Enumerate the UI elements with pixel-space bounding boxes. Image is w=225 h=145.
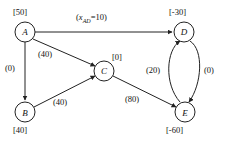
- node-b-supply-label: [40]: [13, 126, 27, 135]
- edge-c-to-e-label: (80): [125, 95, 139, 104]
- edge-a-to-d-label-subscript: AD: [83, 18, 91, 24]
- network-flow-diagram: A B C D E [50] [40] [0] [-30] [-60] (xAD…: [0, 0, 225, 145]
- edge-b-to-c-label: (40): [53, 98, 67, 107]
- edge-d-to-e-label: (0): [204, 66, 214, 75]
- edge-a-to-d-label-suffix: =10): [91, 12, 107, 22]
- node-a-supply-label: [50]: [13, 8, 27, 17]
- edge-d-to-e: [189, 41, 200, 102]
- graph-canvas: A B C D E: [0, 0, 225, 145]
- node-c-letter: C: [101, 66, 108, 76]
- edge-a-to-d-label: (xAD=10): [76, 13, 107, 24]
- edge-c-to-e: [113, 76, 176, 107]
- node-e-letter: E: [181, 108, 188, 118]
- node-d-supply-label: [-30]: [169, 8, 186, 17]
- edge-e-to-d: [169, 41, 180, 102]
- edge-a-to-c-label: (40): [38, 50, 52, 59]
- node-c-supply-label: [0]: [112, 53, 122, 62]
- node-a-letter: A: [21, 27, 28, 37]
- edge-e-to-d-label: (20): [146, 66, 160, 75]
- node-b-letter: B: [22, 108, 28, 118]
- edge-a-to-b-label: (0): [5, 64, 15, 73]
- node-e-supply-label: [-60]: [166, 126, 183, 135]
- node-d-letter: D: [180, 27, 188, 37]
